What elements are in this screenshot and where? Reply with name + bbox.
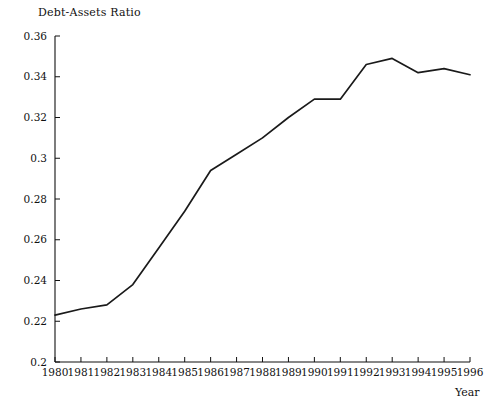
x-tick-label: 1984 — [145, 366, 172, 378]
y-tick-label: 0.24 — [24, 274, 48, 286]
x-tick-label: 1989 — [275, 366, 302, 378]
x-tick-label: 1986 — [197, 366, 224, 378]
y-axis: 0.20.220.240.260.280.30.320.340.36 — [24, 30, 60, 368]
x-tick-label: 1992 — [353, 366, 380, 378]
y-tick-label: 0.3 — [30, 152, 47, 164]
x-tick-label: 1982 — [94, 366, 121, 378]
y-tick-label: 0.34 — [24, 70, 48, 82]
y-tick-label: 0.26 — [24, 233, 48, 245]
x-tick-label: 1980 — [42, 366, 69, 378]
chart-figure: Debt-Assets Ratio 0.20.220.240.260.280.3… — [0, 0, 501, 408]
x-tick-label: 1988 — [249, 366, 276, 378]
y-tick-label: 0.36 — [24, 30, 48, 42]
x-tick-label: 1995 — [431, 366, 458, 378]
y-tick-label: 0.32 — [24, 111, 47, 123]
series-line-debt-assets-ratio — [55, 58, 470, 315]
x-tick-label: 1985 — [171, 366, 198, 378]
x-tick-label: 1991 — [327, 366, 354, 378]
line-chart-canvas: 0.20.220.240.260.280.30.320.340.36 19801… — [0, 0, 501, 408]
data-series-group — [55, 58, 470, 315]
x-tick-label: 1987 — [223, 366, 250, 378]
x-tick-label: 1996 — [457, 366, 484, 378]
y-tick-label: 0.28 — [24, 193, 47, 205]
x-axis-title: Year — [455, 386, 480, 399]
x-tick-label: 1983 — [119, 366, 146, 378]
x-axis: 1980198119821983198419851986198719881989… — [42, 357, 484, 378]
x-tick-label: 1981 — [68, 366, 95, 378]
y-tick-label: 0.22 — [24, 315, 47, 327]
x-tick-label: 1994 — [405, 366, 432, 378]
x-tick-label: 1990 — [301, 366, 328, 378]
x-tick-label: 1993 — [379, 366, 406, 378]
